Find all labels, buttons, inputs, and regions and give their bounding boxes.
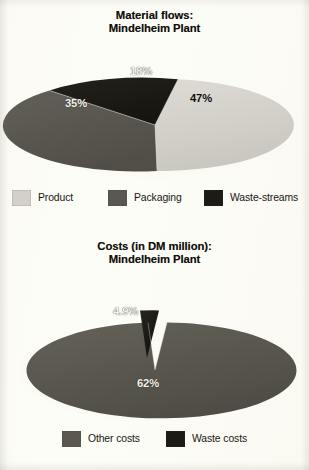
pie-chart-material-flows: 18% 47% 35% <box>0 39 309 179</box>
legend-item-waste-streams[interactable]: Waste-streams <box>204 190 300 206</box>
legend-label-product: Product <box>38 192 73 203</box>
legend-label-packaging: Packaging <box>134 192 182 203</box>
pie-slice-product <box>155 79 294 171</box>
pie-chart-costs: 4.9% 62% <box>0 269 309 419</box>
legend-costs: Other costs Waste costs <box>0 431 309 447</box>
chart-title-costs-line-2: Mindelheim Plant <box>0 253 309 266</box>
pie-svg-costs <box>0 269 309 419</box>
pie-svg-material-flows <box>0 39 309 179</box>
chart-title-costs-line-1: Costs (in DM million): <box>97 240 211 252</box>
chart-title-costs: Costs (in DM million): Mindelheim Plant <box>0 233 309 267</box>
legend-item-packaging[interactable]: Packaging <box>108 190 204 206</box>
legend-item-product[interactable]: Product <box>12 190 108 206</box>
chart-title-material-flows: Material flows: Mindelheim Plant <box>0 0 309 36</box>
chart-title-line-2: Mindelheim Plant <box>0 22 309 35</box>
pie-slices-group <box>3 77 294 171</box>
chart-title-line-1: Material flows: <box>116 9 193 21</box>
legend-label-waste-streams: Waste-streams <box>230 192 298 203</box>
legend-swatch-packaging <box>108 190 127 206</box>
legend-swatch-waste-costs <box>166 431 185 447</box>
legend-item-other-costs[interactable]: Other costs <box>62 431 140 447</box>
legend-swatch-product <box>12 190 31 206</box>
legend-label-other-costs: Other costs <box>88 433 140 444</box>
legend-material-flows: Product Packaging Waste-streams <box>0 190 309 206</box>
legend-item-waste-costs[interactable]: Waste costs <box>166 431 247 447</box>
chart-panel-material-flows: Material flows: Mindelheim Plant <box>0 0 309 232</box>
chart-panel-costs: Costs (in DM million): Mindelheim Plant <box>0 233 309 470</box>
legend-swatch-other-costs <box>62 431 81 447</box>
legend-label-waste-costs: Waste costs <box>192 433 247 444</box>
legend-swatch-waste-streams <box>204 190 223 206</box>
